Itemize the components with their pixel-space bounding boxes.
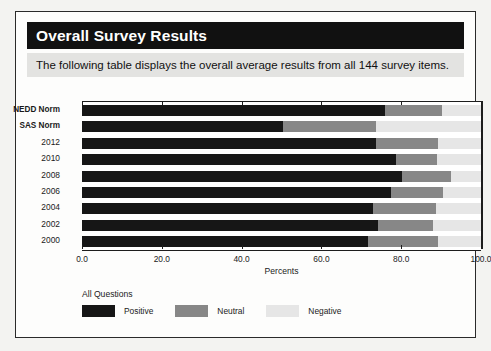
bar-segment-negative (442, 105, 481, 116)
results-panel: Overall Survey Results The following tab… (15, 11, 476, 338)
x-axis-tickmark (321, 245, 322, 249)
x-axis-tick-label: 80.0 (393, 254, 409, 264)
y-axis-tick-label: SAS Norm (0, 120, 60, 131)
x-axis-tickmark (401, 245, 402, 249)
bar-segment-neutral (391, 187, 444, 198)
bar-segment-positive (82, 138, 376, 149)
bar-segment-negative (451, 171, 481, 182)
legend-items: PositiveNeutralNegative (82, 305, 412, 317)
x-axis-tickmark (481, 245, 482, 249)
y-axis-tick-label: 2004 (0, 202, 60, 213)
x-axis-tickmark (162, 101, 163, 105)
bar-segment-positive (82, 171, 402, 182)
y-axis-tick-label: 2002 (0, 219, 60, 230)
bar-segment-negative (437, 154, 481, 165)
bar-row (82, 220, 481, 231)
bar-segment-neutral (376, 138, 438, 149)
x-axis-tickmark (321, 101, 322, 105)
plot-area (82, 101, 481, 251)
bar-segment-positive (82, 121, 283, 132)
legend-swatch (175, 305, 208, 317)
panel-subtitle-bar: The following table displays the overall… (27, 53, 464, 77)
bar-segment-positive (82, 105, 385, 116)
bar-segment-positive (82, 203, 373, 214)
legend-title: All Questions (82, 289, 412, 299)
y-axis-tick-label: 2012 (0, 137, 60, 148)
plot-right-border (481, 101, 483, 249)
y-axis-tick-label: NEDD Norm (0, 104, 60, 115)
bar-segment-positive (82, 154, 396, 165)
chart-legend: All Questions PositiveNeutralNegative (82, 289, 412, 317)
x-axis-tick-label: 20.0 (154, 254, 170, 264)
panel-title-bar: Overall Survey Results (27, 22, 464, 49)
bar-row (82, 187, 481, 198)
bar-segment-negative (436, 203, 481, 214)
x-axis-tickmark (242, 245, 243, 249)
bar-segment-neutral (385, 105, 442, 116)
x-axis-tickmark (82, 101, 83, 105)
bar-rows (82, 102, 481, 250)
legend-label: Neutral (217, 306, 244, 316)
y-axis-tick-label: 2006 (0, 186, 60, 197)
x-axis-tickmark (82, 245, 83, 249)
bar-segment-negative (443, 187, 481, 198)
legend-item[interactable]: Neutral (175, 305, 244, 317)
bar-segment-negative (438, 138, 481, 149)
stacked-bar-chart: Percents NEDD NormSAS Norm20122010200820… (27, 90, 464, 270)
panel-subtitle: The following table displays the overall… (27, 59, 449, 71)
bar-segment-positive (82, 236, 368, 247)
bar-row (82, 154, 481, 165)
x-axis-tick-label: 40.0 (233, 254, 249, 264)
bar-segment-neutral (368, 236, 438, 247)
x-axis-tick-label: 60.0 (313, 254, 329, 264)
bar-segment-neutral (402, 171, 451, 182)
legend-label: Positive (124, 306, 153, 316)
x-axis-tick-label: 0.0 (76, 254, 88, 264)
x-axis-tickmark (162, 245, 163, 249)
bar-row (82, 138, 481, 149)
x-axis-tickmark (481, 101, 482, 105)
x-axis-tick-label: 100.0 (471, 254, 491, 264)
x-axis-title: Percents (82, 266, 481, 276)
legend-item[interactable]: Positive (82, 305, 153, 317)
page-title: Overall Survey Results (27, 27, 207, 45)
bar-segment-neutral (396, 154, 437, 165)
bar-segment-neutral (378, 220, 433, 231)
legend-swatch (82, 305, 115, 317)
bar-segment-positive (82, 220, 378, 231)
bar-segment-negative (376, 121, 481, 132)
bar-segment-neutral (373, 203, 436, 214)
bar-segment-negative (438, 236, 481, 247)
bar-row (82, 203, 481, 214)
bar-segment-positive (82, 187, 391, 198)
y-axis-tick-label: 2000 (0, 235, 60, 246)
y-axis-tick-label: 2008 (0, 170, 60, 181)
legend-item[interactable]: Negative (266, 305, 341, 317)
bar-segment-neutral (283, 121, 376, 132)
bar-segment-negative (433, 220, 481, 231)
bar-row (82, 121, 481, 132)
legend-swatch (266, 305, 299, 317)
x-axis-tickmark (242, 101, 243, 105)
bar-row (82, 236, 481, 247)
y-axis-tick-label: 2010 (0, 153, 60, 164)
bar-row (82, 171, 481, 182)
legend-label: Negative (308, 306, 341, 316)
screenshot-root: Overall Survey Results The following tab… (0, 0, 491, 351)
bar-row (82, 105, 481, 116)
x-axis-tickmark (401, 101, 402, 105)
